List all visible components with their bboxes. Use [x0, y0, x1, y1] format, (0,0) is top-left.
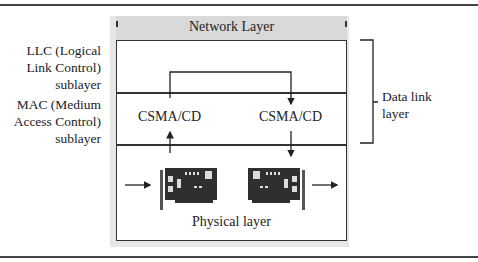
network-card-icon	[248, 168, 305, 210]
network-card-icon	[160, 168, 217, 210]
llc-connector	[170, 72, 291, 104]
connectors	[0, 0, 478, 262]
data-link-bracket	[360, 40, 378, 143]
